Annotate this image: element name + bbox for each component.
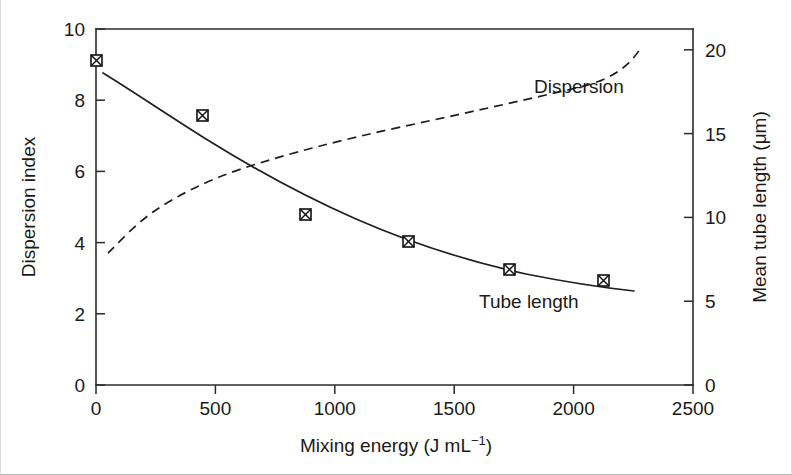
annotation-tube-length: Tube length	[479, 291, 579, 312]
x-tick-label-500: 500	[200, 398, 232, 419]
x-axis-ticks	[96, 385, 693, 394]
y-left-axis-title: Dispersion index	[18, 136, 39, 277]
x-axis-title-close: )	[486, 435, 492, 456]
data-point-marker	[300, 209, 311, 220]
left-axis-tick-labels: 0 2 4 6 8 10	[64, 19, 86, 396]
x-axis-title: Mixing energy (J mL−1)	[300, 433, 492, 456]
x-tick-label-0: 0	[91, 398, 102, 419]
right-tick-label-0: 0	[705, 375, 716, 396]
left-tick-label-2: 2	[74, 304, 85, 325]
data-point-marker	[91, 55, 102, 66]
data-point-markers	[91, 55, 609, 286]
series-tube-length-line	[103, 73, 634, 291]
right-tick-label-15: 15	[705, 124, 726, 145]
annotation-dispersion: Dispersion	[534, 76, 624, 97]
right-tick-label-10: 10	[705, 207, 726, 228]
data-point-marker	[598, 275, 609, 286]
x-axis-tick-labels: 0 500 1000 1500 2000 2500	[91, 398, 714, 419]
y-right-axis-title: Mean tube length (μm)	[749, 111, 770, 303]
x-tick-label-2000: 2000	[552, 398, 594, 419]
right-axis-tick-labels: 0 5 10 15 20	[705, 40, 726, 396]
data-point-marker	[504, 264, 515, 275]
chart-canvas: 0 2 4 6 8 10 0 5 10 15 20	[1, 0, 792, 475]
left-tick-label-8: 8	[74, 90, 85, 111]
x-axis-title-superscript: −1	[471, 433, 486, 448]
x-tick-label-1000: 1000	[314, 398, 356, 419]
left-tick-label-0: 0	[74, 375, 85, 396]
left-axis-ticks	[96, 29, 105, 385]
right-axis-ticks	[684, 50, 693, 385]
x-tick-label-1500: 1500	[433, 398, 475, 419]
figure-container: 0 2 4 6 8 10 0 5 10 15 20	[0, 0, 792, 475]
left-tick-label-4: 4	[74, 233, 85, 254]
data-point-marker	[403, 236, 414, 247]
x-tick-label-2500: 2500	[672, 398, 714, 419]
left-tick-label-10: 10	[64, 19, 85, 40]
left-tick-label-6: 6	[74, 161, 85, 182]
right-tick-label-20: 20	[705, 40, 726, 61]
x-axis-title-main: Mixing energy (J mL	[300, 435, 471, 456]
right-tick-label-5: 5	[705, 291, 716, 312]
data-point-marker	[197, 110, 208, 121]
